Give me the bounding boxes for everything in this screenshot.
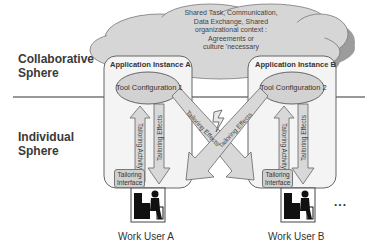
- tailoring-activity-label-a: Tailoring Activity: [137, 123, 144, 169]
- work-user-a-label: Work User A: [118, 231, 174, 242]
- collaborative-line1: Collaborative: [18, 52, 94, 66]
- interface-line1: Tailoring: [117, 171, 142, 179]
- interface-line2: Interface: [265, 179, 290, 187]
- cloud-line: Shared Task, Communication,: [176, 9, 286, 18]
- tailoring-effects-label-b: Tailoring Effects: [300, 115, 307, 161]
- computer-user-icon-a: [131, 188, 165, 222]
- application-instance-b-title: Application Instance B: [255, 60, 336, 69]
- cloud-line: Data Exchange, Shared: [176, 18, 286, 27]
- tool-configuration-1-label: Tool Configuration 1: [116, 83, 180, 92]
- application-instance-a-title: Application Instance A: [110, 60, 191, 69]
- cloud-line: culture 'necessary: [176, 43, 286, 52]
- computer-user-icon-b: [281, 188, 315, 222]
- cloud-text: Shared Task, Communication, Data Exchang…: [176, 9, 286, 52]
- tailoring-interface-b: Tailoring Interface: [262, 169, 293, 188]
- cloud-line: organizational context :: [176, 26, 286, 35]
- interface-line2: Interface: [117, 179, 142, 187]
- cloud-line: Agreements or: [176, 35, 286, 44]
- individual-line2: Sphere: [18, 144, 74, 158]
- collaborative-sphere-label: Collaborative Sphere: [18, 52, 94, 80]
- interface-line1: Tailoring: [265, 171, 290, 179]
- individual-sphere-label: Individual Sphere: [18, 130, 74, 158]
- more-users-ellipsis: ...: [334, 195, 347, 209]
- tailoring-interface-a: Tailoring Interface: [114, 169, 145, 188]
- tool-configuration-2-label: Tool Configuration 2: [260, 83, 324, 92]
- individual-line1: Individual: [18, 130, 74, 144]
- work-user-b-label: Work User B: [268, 231, 325, 242]
- collaborative-line2: Sphere: [18, 66, 94, 80]
- tailoring-activity-label-b: Tailoring Activity: [281, 123, 288, 169]
- tailoring-effects-label-a: Tailoring Effects: [156, 115, 163, 161]
